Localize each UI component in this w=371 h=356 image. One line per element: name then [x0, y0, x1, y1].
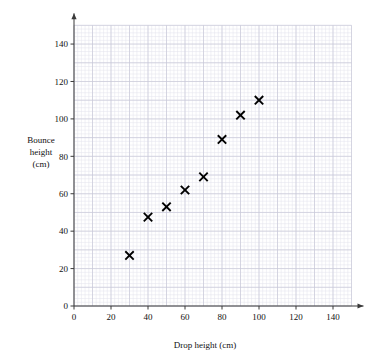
plot-canvas: 020406080100120140 020406080100120140 Dr… [0, 0, 371, 356]
y-tick-label: 20 [59, 264, 69, 274]
x-tick-label: 120 [289, 312, 303, 322]
x-axis-arrowhead [358, 303, 364, 308]
x-tick-label: 140 [326, 312, 340, 322]
y-tick-label: 140 [55, 39, 69, 49]
y-axis-title-line-3: (cm) [33, 159, 50, 169]
y-tick-label: 100 [55, 114, 69, 124]
scatter-plot-figure: 020406080100120140 020406080100120140 Dr… [0, 0, 371, 356]
x-tick-label: 80 [218, 312, 228, 322]
y-tick-label: 0 [64, 301, 69, 311]
y-tick-label: 60 [59, 189, 69, 199]
grid-major-lines [74, 25, 352, 306]
x-axis-title: Drop height (cm) [174, 340, 236, 350]
y-tick-label: 120 [55, 77, 69, 87]
y-tick-label: 40 [59, 226, 69, 236]
y-axis-arrowhead [71, 13, 76, 19]
y-tick-label: 80 [59, 152, 69, 162]
x-tick-label: 20 [107, 312, 117, 322]
x-tick-label: 60 [181, 312, 191, 322]
axis-lines [71, 13, 363, 308]
y-axis-title-line-2: height [30, 147, 53, 157]
tick-marks [71, 44, 334, 309]
x-tick-label: 0 [72, 312, 77, 322]
x-tick-label: 40 [144, 312, 154, 322]
y-axis-tick-labels: 020406080100120140 [55, 39, 69, 311]
x-tick-label: 100 [252, 312, 266, 322]
y-axis-title-line-1: Bounce [27, 135, 55, 145]
x-axis-tick-labels: 020406080100120140 [72, 312, 341, 322]
grid-minor-lines [74, 25, 352, 306]
